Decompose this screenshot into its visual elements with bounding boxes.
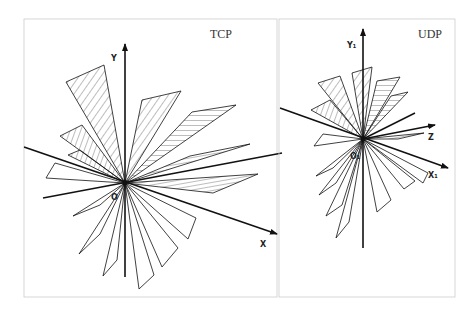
diagram-canvas: TCP Y X O UD (0, 0, 476, 312)
tcp-lower-wedges (73, 183, 196, 289)
tcp-origin-dot (123, 181, 128, 186)
udp-origin-label: O₁ (350, 152, 361, 161)
tcp-y-label: Y (110, 54, 117, 63)
udp-panel: UDP Y₁ Z X₁ O₁ (279, 19, 455, 297)
tcp-panel: TCP Y X O (24, 19, 282, 297)
tcp-origin-label: O (111, 193, 118, 202)
udp-x1-label: X₁ (428, 171, 438, 180)
udp-lower-wedges (316, 139, 428, 238)
udp-title: UDP (418, 27, 442, 41)
tcp-x-label: X (260, 240, 267, 249)
udp-origin-dot (361, 137, 366, 142)
udp-z-label: Z (428, 133, 434, 142)
udp-upper-wedges (311, 67, 424, 146)
tcp-title: TCP (210, 27, 232, 41)
tcp-upper-wedges (46, 65, 258, 193)
udp-y1-label: Y₁ (346, 41, 357, 50)
